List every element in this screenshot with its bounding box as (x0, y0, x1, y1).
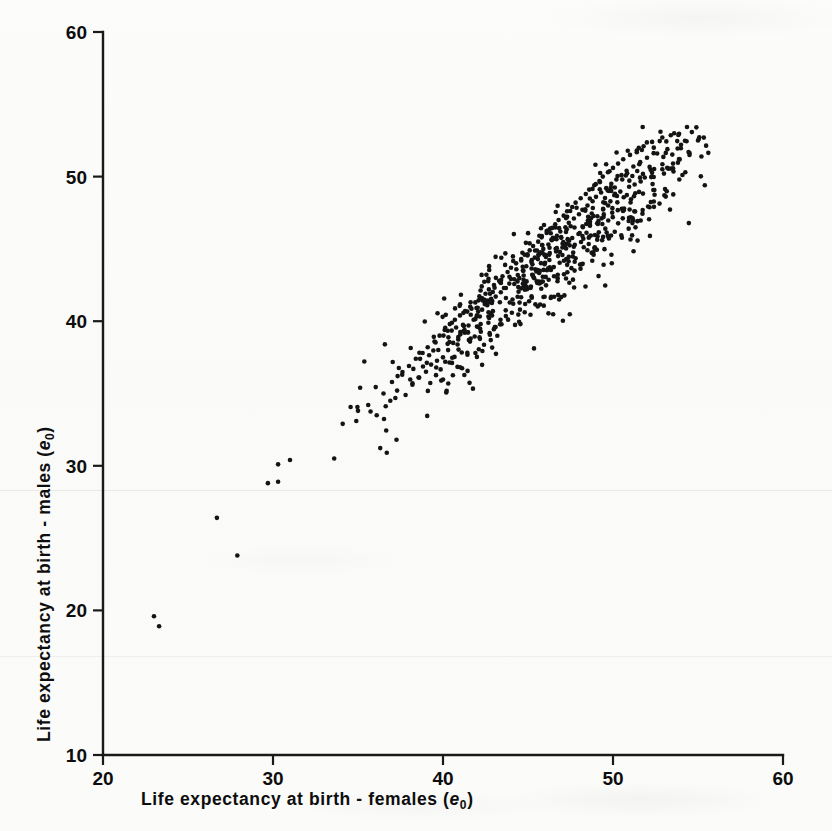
data-point (487, 264, 492, 269)
data-point (615, 208, 620, 213)
data-point (468, 312, 473, 317)
x-tick-label: 20 (92, 768, 113, 789)
data-point (368, 409, 373, 414)
data-point (603, 201, 608, 206)
data-point (507, 275, 512, 280)
data-point (340, 422, 345, 427)
data-points-layer (152, 125, 711, 629)
x-tick-label: 30 (262, 768, 283, 789)
data-point (381, 391, 386, 396)
data-point (595, 214, 600, 219)
y-axis-ticks: 102030405060 (66, 22, 103, 766)
data-point (530, 262, 535, 267)
data-point (458, 332, 463, 337)
data-point (488, 338, 493, 343)
data-point (503, 263, 508, 268)
data-point (540, 243, 545, 248)
data-point (696, 137, 701, 142)
data-point (555, 204, 560, 209)
data-point (522, 310, 527, 315)
data-point (471, 386, 476, 391)
data-point (457, 304, 462, 309)
data-point (518, 307, 523, 312)
data-point (523, 302, 528, 307)
data-point (571, 250, 576, 255)
data-point (677, 177, 682, 182)
data-point (657, 201, 662, 206)
data-point (612, 230, 617, 235)
data-point (526, 231, 531, 236)
data-point (476, 298, 481, 303)
data-point (634, 150, 639, 155)
data-point (453, 306, 458, 311)
data-point (454, 325, 459, 330)
data-point (478, 314, 483, 319)
y-tick-label: 20 (66, 600, 87, 621)
data-point (503, 251, 508, 256)
data-point (435, 311, 440, 316)
data-point (664, 139, 669, 144)
data-point (608, 199, 613, 204)
data-point (411, 367, 416, 372)
data-point (650, 140, 655, 145)
data-point (625, 171, 630, 176)
data-point (620, 216, 625, 221)
data-point (467, 338, 472, 343)
data-point (536, 257, 541, 262)
x-tick-label: 60 (772, 768, 793, 789)
data-point (493, 255, 498, 260)
data-point (535, 304, 540, 309)
data-point (616, 221, 621, 226)
data-point (551, 312, 556, 317)
data-point (545, 268, 550, 273)
data-point (561, 240, 566, 245)
data-point (521, 268, 526, 273)
data-point (568, 312, 573, 317)
data-point (661, 155, 666, 160)
data-point (567, 255, 572, 260)
data-point (618, 189, 623, 194)
data-point (601, 212, 606, 217)
data-point (596, 219, 601, 224)
data-point (525, 252, 530, 257)
data-point (660, 167, 665, 172)
data-point (462, 324, 467, 329)
data-point (615, 174, 620, 179)
data-point (574, 205, 579, 210)
data-point (418, 357, 423, 362)
data-point (456, 347, 461, 352)
data-point (441, 355, 446, 360)
data-point (675, 139, 680, 144)
data-point (627, 178, 632, 183)
data-point (607, 169, 612, 174)
data-point (536, 253, 541, 258)
data-point (429, 362, 434, 367)
data-point (557, 260, 562, 265)
data-point (598, 180, 603, 185)
data-point (531, 273, 536, 278)
data-point (562, 272, 567, 277)
data-point (408, 346, 413, 351)
data-point (649, 200, 654, 205)
data-point (680, 173, 685, 178)
data-point (383, 342, 388, 347)
data-point (509, 265, 514, 270)
data-point (511, 254, 516, 259)
data-point (403, 393, 408, 398)
data-point (438, 367, 443, 372)
data-point (388, 398, 393, 403)
data-point (556, 254, 561, 259)
data-point (604, 162, 609, 167)
data-point (645, 140, 650, 145)
data-point (461, 311, 466, 316)
data-point (466, 323, 471, 328)
data-point (641, 172, 646, 177)
data-point (459, 292, 464, 297)
data-point (456, 337, 461, 342)
data-point (619, 233, 624, 238)
data-point (355, 405, 360, 410)
data-point (521, 273, 526, 278)
data-point (559, 236, 564, 241)
data-point (157, 624, 162, 629)
data-point (633, 209, 638, 214)
